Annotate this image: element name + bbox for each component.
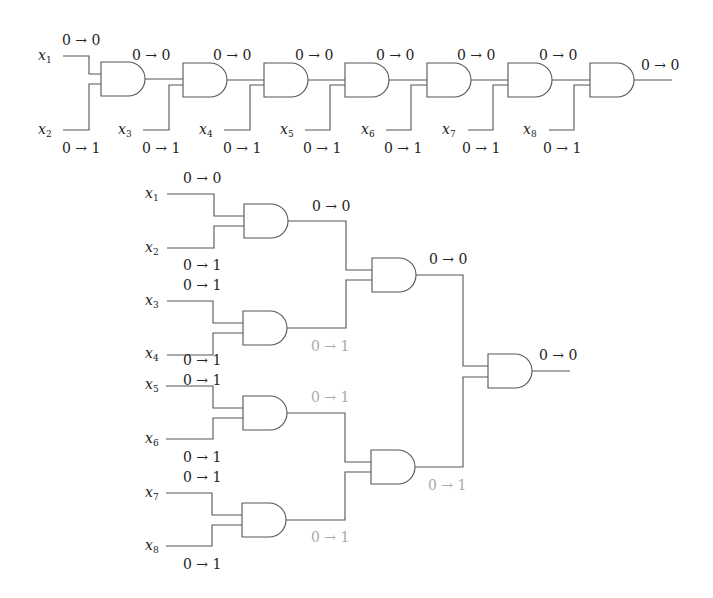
- chain-input-x8-transition: 0 → 1: [543, 140, 581, 156]
- tree-input-x7: x7: [145, 484, 159, 502]
- chain-and-gate-1: [101, 62, 145, 96]
- tree-and-gate-l1-1: [244, 204, 288, 238]
- tree-input-x4: x4: [145, 345, 159, 363]
- chain-input-x8: x8: [523, 121, 537, 139]
- tree-l1-gate-2-output: 0 → 1: [311, 338, 349, 354]
- chain-gate-1-output: 0 → 0: [132, 47, 170, 63]
- tree-input-x8-transition: 0 → 1: [183, 556, 221, 572]
- tree-input-x4-transition: 0 → 1: [183, 352, 221, 368]
- tree-l2-gate-2-output: 0 → 1: [428, 477, 466, 493]
- chain-input-x5-transition: 0 → 1: [303, 140, 341, 156]
- chain-input-x7-transition: 0 → 1: [462, 140, 500, 156]
- chain-input-x3: x3: [118, 121, 132, 139]
- tree-input-x6: x6: [145, 430, 159, 448]
- chain-circuit: x1 x2 0 → 0 0 → 1 x3 x4 x5 x6 x7 x8 0 →: [38, 32, 679, 156]
- tree-l1-gate-1-output: 0 → 0: [312, 198, 350, 214]
- chain-gate-2-output: 0 → 0: [213, 47, 251, 63]
- chain-input-x4-transition: 0 → 1: [223, 140, 261, 156]
- chain-input-x2: x2: [38, 121, 52, 139]
- chain-and-gate-6: [508, 63, 552, 97]
- tree-and-gate-l1-4: [242, 503, 286, 537]
- tree-input-x2: x2: [145, 239, 159, 257]
- tree-input-x6-transition: 0 → 1: [183, 449, 221, 465]
- tree-input-x1-transition: 0 → 0: [183, 170, 221, 186]
- chain-input-x1: x1: [38, 47, 52, 65]
- chain-input-x6: x6: [361, 121, 375, 139]
- tree-input-x3: x3: [145, 292, 159, 310]
- chain-input-x1-transition: 0 → 0: [62, 32, 100, 48]
- chain-wire-x2: [63, 84, 101, 130]
- tree-input-x2-transition: 0 → 1: [183, 257, 221, 273]
- chain-and-gate-4: [345, 63, 389, 97]
- chain-wire-x1: [63, 56, 101, 74]
- tree-input-x1: x1: [145, 185, 159, 203]
- chain-gate-5-output: 0 → 0: [457, 47, 495, 63]
- tree-input-x5-transition: 0 → 1: [183, 372, 221, 388]
- tree-input-x3-transition: 0 → 1: [183, 277, 221, 293]
- chain-input-x7: x7: [442, 121, 456, 139]
- chain-input-x5: x5: [280, 121, 294, 139]
- chain-gate-3-output: 0 → 0: [295, 47, 333, 63]
- chain-and-gate-7: [590, 63, 634, 97]
- chain-input-x4: x4: [199, 121, 213, 139]
- tree-input-x7-transition: 0 → 1: [183, 469, 221, 485]
- chain-gate-7-output: 0 → 0: [641, 57, 679, 73]
- tree-input-x5: x5: [145, 376, 159, 394]
- chain-gate-6-output: 0 → 0: [539, 47, 577, 63]
- tree-l1-gate-4-output: 0 → 1: [311, 529, 349, 545]
- tree-l2-gate-1-output: 0 → 0: [429, 251, 467, 267]
- tree-and-gate-l1-3: [243, 396, 287, 430]
- tree-and-gate-l1-2: [243, 311, 287, 345]
- chain-input-x2-transition: 0 → 1: [62, 140, 100, 156]
- tree-and-gate-final: [488, 354, 532, 388]
- tree-input-x8: x8: [145, 537, 159, 555]
- chain-and-gate-5: [427, 63, 471, 97]
- tree-and-gate-l2-1: [372, 258, 416, 292]
- tree-and-gate-l2-2: [371, 450, 415, 484]
- chain-and-gate-3: [264, 63, 308, 97]
- chain-and-gate-2: [183, 63, 227, 97]
- chain-input-x3-transition: 0 → 1: [142, 140, 180, 156]
- chain-gate-4-output: 0 → 0: [376, 47, 414, 63]
- tree-l1-gate-3-output: 0 → 1: [311, 389, 349, 405]
- tree-final-output: 0 → 0: [539, 347, 577, 363]
- chain-input-x6-transition: 0 → 1: [384, 140, 422, 156]
- tree-circuit: x1 x2 x3 x4 x5 x6 x7 x8 0 → 0 0 → 1 0 → …: [145, 170, 577, 572]
- circuit-diagram: x1 x2 0 → 0 0 → 1 x3 x4 x5 x6 x7 x8 0 →: [0, 0, 713, 598]
